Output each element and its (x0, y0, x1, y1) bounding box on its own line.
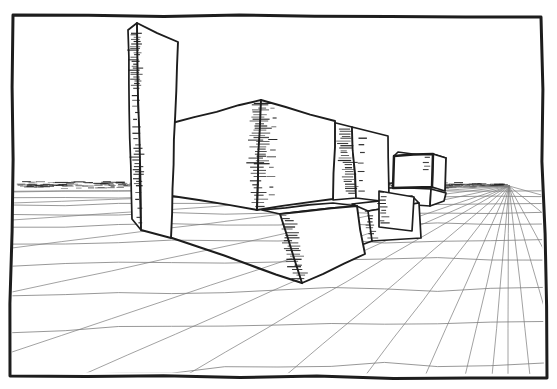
page (0, 0, 557, 389)
tower-box-face (137, 23, 178, 238)
monitor-box-face (393, 154, 433, 188)
monitor-box-face (432, 154, 446, 191)
side-slab (377, 191, 414, 231)
monitor-box (393, 152, 446, 191)
cube-box (171, 100, 335, 210)
tower-box (127, 23, 178, 238)
perspective-drawing (0, 0, 557, 389)
medium-box (332, 122, 389, 202)
medium-box-face (352, 127, 389, 202)
